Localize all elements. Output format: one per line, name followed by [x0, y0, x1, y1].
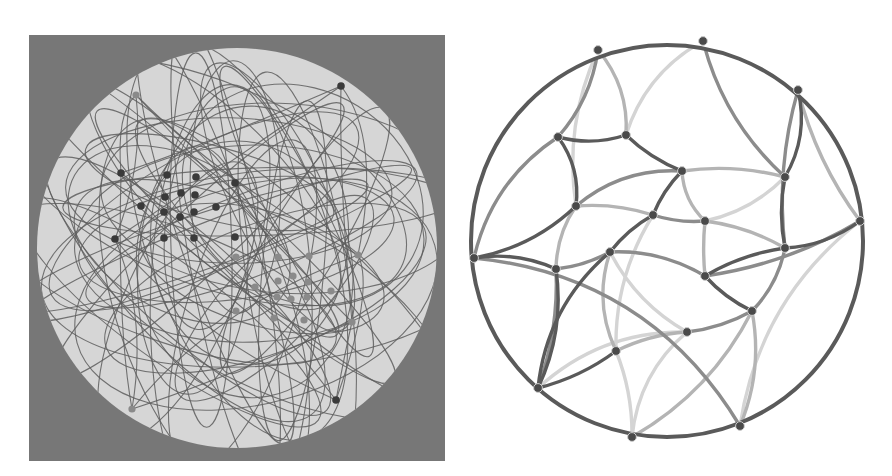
light-node: [327, 287, 334, 294]
tiling-node: [781, 244, 790, 253]
light-node: [348, 318, 355, 325]
light-node: [251, 283, 258, 290]
light-node: [354, 251, 361, 258]
tiling-node: [554, 133, 563, 142]
light-node: [304, 278, 311, 285]
light-node: [274, 253, 281, 260]
poincare-disk-geodesics-panel: [29, 35, 445, 461]
geodesic-arcs-diagram: [29, 35, 445, 461]
dark-node: [111, 235, 119, 243]
dark-node: [177, 189, 185, 197]
dark-node: [231, 233, 239, 241]
light-node: [287, 295, 294, 302]
tiling-edge: [474, 137, 558, 258]
tiling-node: [606, 248, 615, 257]
tiling-node: [649, 211, 658, 220]
hyperbolic-tiling-panel: [465, 30, 885, 450]
light-node: [274, 277, 281, 284]
tiling-edge: [682, 171, 705, 221]
light-node: [232, 307, 239, 314]
tiling-edge: [798, 90, 860, 221]
tiling-edge: [704, 221, 705, 276]
light-node: [300, 316, 307, 323]
tiling-node: [622, 131, 631, 140]
light-node: [232, 253, 239, 260]
dark-node: [137, 202, 145, 210]
tiling-node: [699, 37, 708, 46]
light-node: [305, 252, 312, 259]
tiling-node: [748, 307, 757, 316]
tiling-node: [594, 46, 603, 55]
dark-node: [117, 169, 125, 177]
dark-node: [163, 171, 171, 179]
tiling-node: [572, 202, 581, 211]
tiling-edge: [705, 221, 785, 248]
dark-node: [332, 396, 340, 404]
dark-node: [192, 173, 200, 181]
light-node: [303, 293, 310, 300]
tiling-edge: [682, 168, 785, 177]
hyperbolic-tiling-diagram: [465, 30, 885, 450]
tiling-edge: [610, 252, 705, 276]
tiling-node: [701, 272, 710, 281]
dark-node: [190, 208, 198, 216]
tiling-node: [470, 254, 479, 263]
dark-node: [160, 208, 168, 216]
tiling-node: [701, 217, 710, 226]
dark-node: [160, 234, 168, 242]
tiling-node: [683, 328, 692, 337]
light-node: [132, 91, 139, 98]
dark-node: [190, 234, 198, 242]
tiling-edge: [558, 135, 626, 141]
tiling-edge: [598, 50, 626, 135]
tiling-edge: [705, 276, 752, 311]
tiling-edge: [474, 258, 740, 426]
dark-node: [231, 179, 239, 187]
tiling-node: [628, 433, 637, 442]
tiling-edge: [626, 135, 682, 171]
tiling-edge: [610, 215, 653, 252]
dark-node: [191, 191, 199, 199]
tiling-node: [794, 86, 803, 95]
tiling-edge: [626, 41, 703, 135]
tiling-node: [736, 422, 745, 431]
tiling-node: [552, 265, 561, 274]
tiling-node: [612, 347, 621, 356]
light-node: [289, 272, 296, 279]
tiling-edge: [616, 215, 653, 351]
tiling-node: [781, 173, 790, 182]
tiling-edge: [653, 215, 705, 221]
tiling-node: [678, 167, 687, 176]
dark-node: [337, 82, 345, 90]
light-node: [270, 314, 277, 321]
dark-node: [212, 203, 220, 211]
tiling-edge: [616, 351, 632, 437]
tiling-edge: [653, 171, 682, 215]
dark-node: [176, 213, 184, 221]
dark-node: [161, 193, 169, 201]
tiling-edge: [785, 221, 860, 248]
tiling-node: [534, 384, 543, 393]
light-node: [273, 293, 280, 300]
light-node: [128, 405, 135, 412]
tiling-edge: [576, 205, 653, 215]
tiling-node: [856, 217, 865, 226]
tiling-edge: [705, 177, 785, 221]
